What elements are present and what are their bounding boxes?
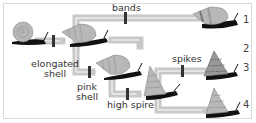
snail-outcome-1 bbox=[193, 7, 238, 29]
label-spikes: spikes bbox=[172, 54, 202, 64]
outcome-number-3: 3 bbox=[243, 63, 249, 73]
marker-bands bbox=[124, 12, 127, 24]
snail-outcome-3 bbox=[204, 51, 238, 80]
outcome-number-1: 1 bbox=[243, 15, 249, 25]
marker-elongated bbox=[52, 35, 55, 47]
marker-spikes bbox=[181, 65, 184, 77]
label-pink-shell: shell bbox=[72, 92, 102, 102]
snail-pink bbox=[96, 55, 142, 80]
snail-outcome-4 bbox=[206, 88, 240, 118]
label-elongated-shell: shell bbox=[30, 69, 80, 79]
snail-ancestor bbox=[12, 22, 48, 45]
outcome-number-4: 4 bbox=[243, 100, 249, 110]
label-bands: bands bbox=[112, 3, 141, 13]
label-high-spire: high spire bbox=[107, 100, 154, 110]
marker-pink bbox=[88, 66, 91, 78]
snail-elongated bbox=[62, 24, 108, 47]
outcome-number-2: 2 bbox=[243, 44, 249, 54]
